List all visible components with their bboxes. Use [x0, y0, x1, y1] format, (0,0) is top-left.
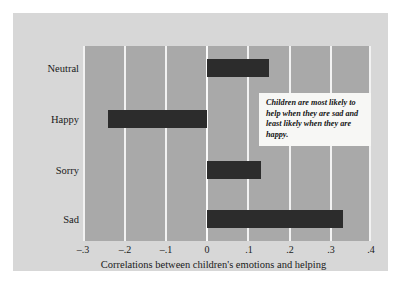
bar-sorry	[207, 161, 261, 179]
x-axis-title: Correlations between children's emotions…	[26, 259, 401, 270]
y-label-happy: Happy	[15, 114, 79, 125]
x-tick-0.1: .1	[245, 244, 253, 255]
x-axis-tick-labels: –.3 –.2 –.1 0 .1 .2 .3 .4	[83, 242, 371, 258]
y-label-sad: Sad	[15, 214, 79, 225]
x-tick-0.3: .3	[327, 244, 335, 255]
y-label-sorry: Sorry	[15, 165, 79, 176]
y-label-neutral: Neutral	[15, 63, 79, 74]
x-tick-0.2: .2	[286, 244, 294, 255]
bar-sad	[207, 210, 343, 228]
gridline-x--0.1	[165, 46, 167, 241]
y-axis-category-labels: Neutral Happy Sorry Sad	[13, 46, 79, 241]
x-tick--0.1: –.1	[160, 244, 173, 255]
annotation-text: Children are most likely to help when th…	[266, 98, 365, 140]
x-tick--0.3: –.3	[77, 244, 90, 255]
bar-neutral	[207, 59, 269, 77]
bar-happy	[108, 110, 207, 128]
x-tick-0: 0	[205, 244, 210, 255]
x-tick--0.2: –.2	[119, 244, 132, 255]
gridline-x--0.2	[124, 46, 126, 241]
annotation-callout: Children are most likely to help when th…	[259, 93, 371, 146]
gridline-x--0.3	[83, 46, 85, 241]
x-tick-0.4: .4	[367, 244, 375, 255]
figure-card: Neutral Happy Sorry Sad –.3 –.2 –.1 0 .1…	[13, 13, 388, 271]
